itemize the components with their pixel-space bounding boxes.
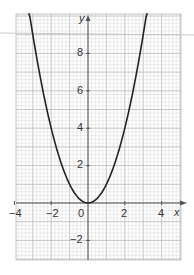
- y-tick-label-6: 6: [77, 85, 83, 96]
- y-tick-label-neg2: −2: [70, 234, 83, 245]
- x-tick-label-2: 2: [121, 208, 127, 219]
- y-tick-label-2: 2: [77, 159, 83, 170]
- x-tick-label-0: 0: [78, 208, 84, 219]
- x-axis-label: x: [174, 207, 180, 218]
- y-tick-label-8: 8: [77, 47, 83, 58]
- y-axis-label: y: [79, 13, 85, 24]
- y-tick-label-4: 4: [77, 122, 83, 133]
- x-tick-label-4: 4: [158, 208, 164, 219]
- grid: [16, 14, 181, 260]
- x-tick-label-neg2: −2: [46, 208, 59, 219]
- parabola-plot: [0, 0, 194, 275]
- x-tick-label-neg4: −4: [9, 208, 22, 219]
